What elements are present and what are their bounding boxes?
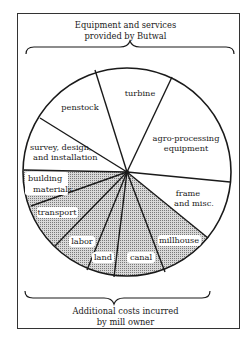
bottom-caption-line1: Additional costs incurred <box>0 306 251 317</box>
label-millhouse: millhouse <box>159 235 199 245</box>
label-frame-2: and misc. <box>174 198 214 208</box>
bottom-caption: Additional costs incurred by mill owner <box>0 306 251 328</box>
label-agro-1: agro-processing <box>153 133 220 143</box>
label-land: land <box>94 252 112 262</box>
label-survey-1: survey, design, <box>30 142 92 152</box>
label-building-2: materials <box>33 184 72 194</box>
bottom-brace <box>25 291 210 304</box>
pie-diagram: turbine agro-processing equipment frame … <box>0 0 251 343</box>
label-building-1: building <box>28 173 62 183</box>
label-turbine: turbine <box>125 88 156 98</box>
label-penstock: penstock <box>61 102 99 112</box>
label-transport: transport <box>38 207 78 217</box>
bottom-caption-line2: by mill owner <box>0 317 251 328</box>
label-survey-2: and installation <box>33 152 98 162</box>
top-brace <box>26 41 234 54</box>
label-frame-1: frame <box>176 188 201 198</box>
label-agro-2: equipment <box>164 143 209 153</box>
label-canal: canal <box>130 252 153 262</box>
label-labor: labor <box>71 236 93 246</box>
